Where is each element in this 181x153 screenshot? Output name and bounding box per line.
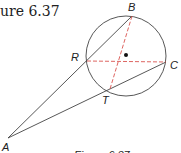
label-C: C [170, 59, 178, 71]
label-A: A [1, 141, 9, 153]
center-dot [124, 53, 128, 57]
geometry-diagram: B R C T A Figure 6.37 [0, 0, 181, 153]
chord-RC [87, 61, 166, 62]
secant-AC [8, 62, 166, 138]
label-T: T [102, 94, 110, 106]
figure-caption: Figure 6.37 [74, 149, 131, 153]
label-R: R [71, 51, 79, 63]
label-B: B [128, 1, 135, 13]
